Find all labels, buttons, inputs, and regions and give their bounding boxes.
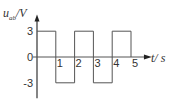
y-axis-label: uab/V — [3, 6, 28, 22]
x-tick-label: 3 — [94, 57, 100, 69]
x-axis-label: t/ s — [151, 51, 166, 65]
y-axis-arrow — [35, 14, 40, 21]
x-tick-label: 4 — [113, 57, 119, 69]
y-tick-label: 0 — [27, 51, 33, 63]
y-tick-label: -3 — [23, 77, 33, 89]
x-tick-label: 2 — [76, 57, 82, 69]
x-tick-label: 5 — [132, 57, 138, 69]
x-tick-label: 1 — [57, 57, 63, 69]
chart: 1234530-3 uab/V t/ s — [0, 0, 175, 109]
y-tick-label: 3 — [27, 25, 33, 37]
